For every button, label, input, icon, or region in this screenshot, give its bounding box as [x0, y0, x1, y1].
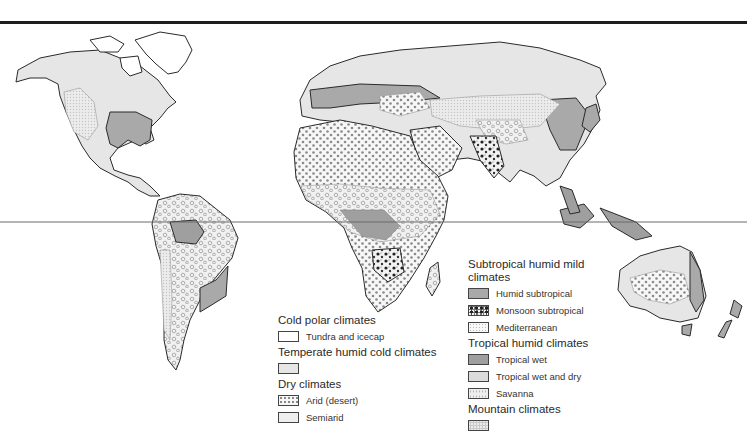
legend-item-semiarid: Semiarid [278, 410, 468, 425]
swatch-humid-subtropical [468, 288, 489, 299]
legend-group-title: Tropical humid climates [468, 337, 608, 350]
legend-item-savanna: Savanna [468, 386, 608, 401]
legend-item-tundra: Tundra and icecap [278, 329, 468, 344]
legend-item-tropical-wet-dry: Tropical wet and dry [468, 369, 608, 384]
legend-item-label: Arid (desert) [306, 394, 358, 407]
legend-item-label: Monsoon subtropical [496, 304, 584, 317]
legend-item-mediterranean: Mediterranean [468, 320, 608, 335]
legend-item-temperate [278, 361, 468, 376]
legend-item-label: Semiarid [306, 411, 344, 424]
swatch-monsoon-subtropical [468, 305, 489, 316]
legend-group-title: Cold polar climates [278, 314, 468, 327]
legend-group-title: Mountain climates [468, 403, 608, 416]
legend-item-mountain [468, 418, 608, 432]
legend-item-tropical-wet: Tropical wet [468, 352, 608, 367]
legend-item-label: Savanna [496, 387, 534, 400]
legend-item-label: Tropical wet [496, 353, 547, 366]
legend-right-column: Subtropical humid mild climates Humid su… [468, 258, 608, 432]
legend-item-label: Humid subtropical [496, 287, 572, 300]
legend-item-humid-subtropical: Humid subtropical [468, 286, 608, 301]
legend-item-arid: Arid (desert) [278, 393, 468, 408]
legend-item-label: Tundra and icecap [306, 330, 384, 343]
legend-item-monsoon-subtropical: Monsoon subtropical [468, 303, 608, 318]
swatch-semiarid [278, 412, 299, 423]
swatch-mediterranean [468, 322, 489, 333]
swatch-tundra [278, 331, 299, 342]
legend-group-title: Dry climates [278, 378, 468, 391]
legend-left-column: Cold polar climates Tundra and icecap Te… [278, 314, 468, 427]
greenland [135, 32, 192, 74]
legend-item-label: Mediterranean [496, 321, 557, 334]
legend-item-label: Tropical wet and dry [496, 370, 581, 383]
swatch-tropical-wet [468, 354, 489, 365]
swatch-tropical-wet-dry [468, 371, 489, 382]
swatch-temperate [278, 363, 299, 374]
legend-group-title: Subtropical humid mild climates [468, 258, 608, 284]
swatch-mountain [468, 420, 489, 431]
legend-group-title: Temperate humid cold climates [278, 346, 468, 359]
swatch-savanna [468, 388, 489, 399]
swatch-arid [278, 395, 299, 406]
